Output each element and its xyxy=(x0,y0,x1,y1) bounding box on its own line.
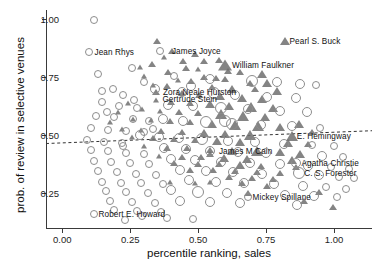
data-point-circle xyxy=(228,167,238,177)
data-point-triangle xyxy=(251,86,259,92)
data-point-circle xyxy=(291,93,301,103)
data-point-triangle xyxy=(153,38,161,44)
data-point-circle xyxy=(90,16,98,24)
data-point-circle xyxy=(119,91,127,99)
data-point-circle xyxy=(156,47,164,55)
data-point-circle xyxy=(262,92,272,102)
data-point-circle xyxy=(205,74,215,84)
annotation-label: James Joyce xyxy=(172,47,221,56)
data-point-triangle xyxy=(195,66,201,71)
data-point-circle xyxy=(122,188,130,196)
data-point-circle xyxy=(175,196,185,206)
annotation-label: James M Cain xyxy=(219,147,273,156)
data-point-circle xyxy=(256,120,266,130)
annotation-label: Gertrude Stein xyxy=(162,95,217,104)
data-point-circle xyxy=(269,179,279,189)
data-point-circle xyxy=(201,166,211,176)
data-point-circle xyxy=(92,112,100,120)
scatter-plot-figure: 0.000.250.500.751.00 0.250.500.751.00 pe… xyxy=(0,0,380,264)
data-point-circle xyxy=(145,160,153,168)
data-point-circle xyxy=(98,87,106,95)
data-point-triangle xyxy=(236,69,244,75)
data-point-circle xyxy=(295,79,305,89)
data-point-circle xyxy=(132,170,140,178)
data-point-triangle xyxy=(141,144,147,149)
data-point-circle xyxy=(144,189,152,197)
data-point-triangle xyxy=(157,108,163,113)
data-point-circle xyxy=(98,98,106,106)
data-point-circle xyxy=(154,132,164,142)
data-point-circle xyxy=(150,84,160,94)
annotation-label: E. Hemingway xyxy=(297,131,351,140)
data-point-triangle xyxy=(156,153,162,158)
data-point-circle xyxy=(159,143,169,153)
data-point-circle xyxy=(275,159,285,169)
data-point-circle xyxy=(119,142,127,150)
data-point-circle xyxy=(128,64,136,72)
y-tick-label: 0.50 xyxy=(27,130,59,141)
data-point-circle xyxy=(322,183,330,191)
data-point-circle xyxy=(192,186,204,198)
x-axis-title: percentile ranking, sales xyxy=(147,247,271,259)
data-point-triangle xyxy=(148,61,156,67)
annotation-label: Robert E. Howard xyxy=(99,210,166,219)
data-point-triangle xyxy=(194,110,202,116)
data-point-circle xyxy=(104,126,112,134)
data-point-circle xyxy=(151,199,159,207)
data-point-circle xyxy=(90,210,98,218)
data-point-circle xyxy=(174,133,184,143)
data-point-circle xyxy=(275,106,285,116)
data-point-triangle xyxy=(275,148,285,156)
data-point-circle xyxy=(103,108,111,116)
data-point-circle xyxy=(243,104,253,114)
data-point-triangle xyxy=(137,64,143,69)
data-point-triangle xyxy=(257,70,267,78)
data-point-circle xyxy=(333,193,341,201)
data-point-circle xyxy=(100,138,108,146)
data-point-circle xyxy=(87,124,95,132)
data-point-circle xyxy=(115,102,123,110)
data-point-circle xyxy=(152,171,160,179)
y-tick-label: 0.75 xyxy=(27,72,59,83)
data-point-triangle xyxy=(221,76,229,82)
data-point-circle xyxy=(239,178,249,188)
data-point-triangle xyxy=(182,65,190,71)
data-point-circle xyxy=(178,116,188,126)
data-point-triangle xyxy=(175,109,183,115)
data-point-circle xyxy=(145,117,153,125)
data-point-circle xyxy=(200,116,212,128)
data-point-circle xyxy=(298,181,308,191)
data-point-triangle xyxy=(186,167,194,173)
data-point-triangle xyxy=(275,123,285,131)
data-point-circle xyxy=(205,146,215,156)
data-point-circle xyxy=(175,165,185,175)
data-point-triangle xyxy=(280,37,290,45)
y-axis-title: prob. of review in selective venues xyxy=(14,10,26,240)
data-point-circle xyxy=(137,179,145,187)
data-point-triangle xyxy=(153,98,159,103)
data-point-circle xyxy=(302,107,312,117)
data-point-triangle xyxy=(235,138,245,146)
annotation-label: Agatha Christie xyxy=(301,158,358,167)
x-tick-label: 0.50 xyxy=(189,234,208,245)
data-point-circle xyxy=(205,197,215,207)
annotation-label: Jean Rhys xyxy=(94,48,134,57)
data-point-circle xyxy=(126,159,134,167)
data-point-circle xyxy=(113,168,121,176)
annotation-label: C. S. Forester xyxy=(304,169,356,178)
data-point-circle xyxy=(135,130,145,140)
data-point-circle xyxy=(129,115,137,123)
x-tick-label: 0.00 xyxy=(53,234,72,245)
data-point-circle xyxy=(158,114,168,124)
data-point-circle xyxy=(184,175,194,185)
data-point-circle xyxy=(85,48,93,56)
data-point-circle xyxy=(130,96,138,104)
annotation-label: William Faulkner xyxy=(232,60,294,69)
data-point-circle xyxy=(222,188,232,198)
data-point-circle xyxy=(102,187,110,195)
x-tick-label: 0.75 xyxy=(257,234,276,245)
data-point-triangle xyxy=(212,137,222,145)
data-point-circle xyxy=(181,144,191,154)
data-point-circle xyxy=(245,158,255,168)
y-tick-label: 1.00 xyxy=(27,14,59,25)
